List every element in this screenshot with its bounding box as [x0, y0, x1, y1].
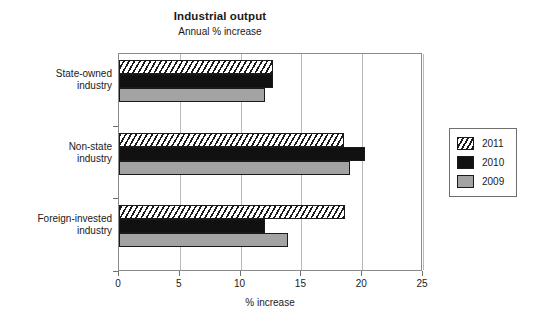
legend-swatch-icon — [457, 156, 474, 169]
x-tick-label-10: 10 — [225, 278, 255, 289]
legend-item-2009[interactable]: 2009 — [457, 174, 504, 189]
bar-2009[interactable] — [119, 88, 265, 102]
legend-item-2010[interactable]: 2010 — [457, 155, 504, 170]
x-tick-mark-10 — [240, 271, 241, 276]
category-label-line: industry — [4, 153, 112, 165]
x-tick-mark-5 — [179, 271, 180, 276]
y-tick-mark — [113, 198, 118, 199]
y-axis-category-label: Non-stateindustry — [4, 141, 112, 165]
plot-area — [118, 53, 422, 271]
x-axis-title: % increase — [118, 297, 422, 308]
y-axis-labels: State-ownedindustryNon-stateindustryFore… — [0, 0, 112, 326]
bar-group — [119, 60, 421, 102]
legend-label: 2009 — [482, 176, 504, 187]
x-tick-mark-0 — [118, 271, 119, 276]
x-tick-mark-20 — [361, 271, 362, 276]
x-tick-mark-25 — [422, 271, 423, 276]
x-tick-mark-15 — [300, 271, 301, 276]
y-axis-category-label: Foreign-investedindustry — [4, 213, 112, 237]
legend-label: 2011 — [482, 138, 504, 149]
bar-2011[interactable] — [119, 205, 345, 219]
legend: 201120102009 — [449, 128, 517, 197]
category-label-line: Non-state — [4, 141, 112, 153]
category-label-line: State-owned — [4, 68, 112, 80]
legend-label: 2010 — [482, 157, 504, 168]
bar-2010[interactable] — [119, 147, 365, 161]
bar-2009[interactable] — [119, 161, 350, 175]
legend-swatch-icon — [457, 175, 474, 188]
bar-group — [119, 133, 421, 175]
category-label-line: industry — [4, 80, 112, 92]
bar-2011[interactable] — [119, 60, 273, 74]
category-label-line: industry — [4, 225, 112, 237]
bar-group — [119, 205, 421, 247]
category-label-line: Foreign-invested — [4, 213, 112, 225]
bar-2011[interactable] — [119, 133, 344, 147]
y-tick-mark — [113, 126, 118, 127]
bar-2010[interactable] — [119, 219, 265, 233]
x-tick-label-5: 5 — [164, 278, 194, 289]
legend-item-2011[interactable]: 2011 — [457, 136, 504, 151]
bar-2010[interactable] — [119, 74, 273, 88]
x-tick-label-15: 15 — [285, 278, 315, 289]
x-tick-label-20: 20 — [346, 278, 376, 289]
x-tick-label-0: 0 — [103, 278, 133, 289]
legend-swatch-icon — [457, 137, 474, 150]
bar-2009[interactable] — [119, 233, 288, 247]
gridline-25 — [423, 54, 424, 270]
x-tick-label-25: 25 — [407, 278, 437, 289]
y-axis-category-label: State-ownedindustry — [4, 68, 112, 92]
